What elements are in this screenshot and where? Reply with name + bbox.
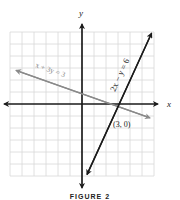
- y-axis-label: y: [78, 8, 83, 18]
- point-label: (3, 0): [113, 120, 131, 129]
- equation-label-secondary: x + 3y = 3: [34, 60, 66, 79]
- line-2x-minus-y-eq-6-down-arrow: [87, 37, 150, 175]
- figure-caption: FIGURE 2: [0, 193, 180, 200]
- equation-label-primary: 2x − y = 6: [108, 57, 132, 93]
- graph: x y 2x − y = 6 x + 3y = 3 (3, 0): [0, 0, 180, 200]
- x-axis-label: x: [166, 99, 171, 109]
